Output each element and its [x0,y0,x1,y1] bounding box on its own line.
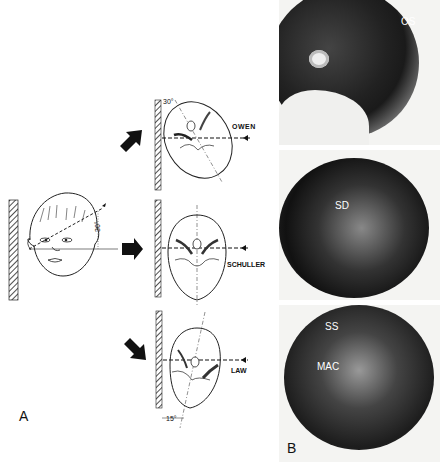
law-label: LAW [231,367,247,374]
label-os: OS [401,16,415,27]
label-sd: SD [335,200,349,211]
schuller-view-diagram: SCHULLER [155,200,265,305]
radiograph-law: SS MAC [279,305,440,462]
arrow-diagonal-up-icon [120,130,142,152]
law-angle-label: 15° [166,415,177,422]
radiograph-owen: OS [279,0,440,145]
child-face-diagram: 30° [9,193,118,300]
face-angle-label: 30° [94,221,101,232]
owen-angle-label: 30° [163,98,174,105]
owen-view-diagram: 30° OWEN [120,89,256,190]
arrow-right-icon [122,238,143,260]
label-ss: SS [325,321,338,332]
panel-b-letter: B [287,440,296,456]
arrow-diagonal-down-icon [124,338,146,360]
law-view-diagram: 15° LAW [124,311,248,428]
owen-label: OWEN [232,123,256,130]
radiograph-schuller: SD [279,150,440,300]
panel-a-diagrams: 30° 30° OWEN SCHULLER [0,0,275,462]
label-mac: MAC [317,361,339,372]
schuller-label: SCHULLER [227,261,265,268]
panel-a-letter: A [19,408,28,424]
